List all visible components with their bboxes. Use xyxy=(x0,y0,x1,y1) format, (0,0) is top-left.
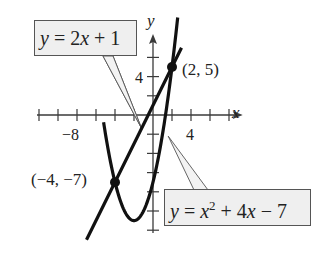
graph-figure: y x −8 4 4 (2, 5) (−4, −7) y = 2x + 1 y … xyxy=(0,0,330,253)
eq-text: = 2 xyxy=(49,27,80,49)
line-equation-box: y = 2x + 1 xyxy=(34,20,137,56)
parabola-callout-wedge xyxy=(168,136,208,190)
line-callout-wedge xyxy=(103,56,142,128)
intersection-point-dot xyxy=(167,62,177,72)
eq-var-y: y xyxy=(40,27,49,49)
eq-var-x: x xyxy=(247,200,256,222)
point-label-neg4-neg7: (−4, −7) xyxy=(31,171,87,188)
tick-label-x-4: 4 xyxy=(186,127,194,143)
y-axis-label: y xyxy=(147,12,155,29)
intersection-point-dot xyxy=(110,177,120,187)
eq-text: + 4 xyxy=(216,200,247,222)
parabola-equation-box: y = x2 + 4x − 7 xyxy=(164,189,311,226)
point-label-2-5: (2, 5) xyxy=(182,61,219,78)
tick-label-y-4: 4 xyxy=(135,70,143,86)
x-axis-label: x xyxy=(232,104,240,121)
eq-text: − 7 xyxy=(256,200,287,222)
eq-text: = xyxy=(179,200,200,222)
tick-label-x-neg8: −8 xyxy=(62,127,79,143)
eq-var-x: x xyxy=(200,200,209,222)
eq-var-y: y xyxy=(170,200,179,222)
eq-var-x: x xyxy=(80,27,89,49)
eq-text: + 1 xyxy=(89,27,120,49)
